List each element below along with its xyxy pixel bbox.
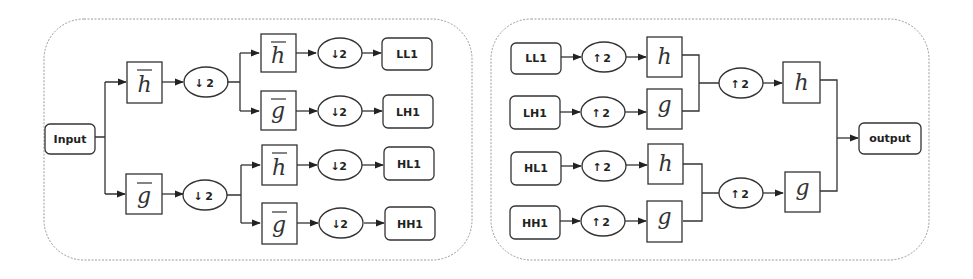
down-arrow-icon: ↓ bbox=[194, 77, 203, 90]
svg-text:2: 2 bbox=[602, 216, 610, 229]
svg-text:HH1: HH1 bbox=[522, 217, 548, 230]
decomposition-panel: Input h ↓ 2 g ↓ 2 bbox=[44, 19, 472, 260]
wavelet-diagram: Input h ↓ 2 g ↓ 2 bbox=[0, 0, 973, 279]
up-arrow-icon: ↑ bbox=[592, 161, 601, 174]
connector bbox=[95, 82, 124, 194]
svg-text:2: 2 bbox=[741, 78, 749, 91]
recon-row-HL1: HL1 ↑ 2 h bbox=[511, 144, 683, 185]
down-arrow-icon: ↓ bbox=[193, 190, 202, 203]
svg-text:g: g bbox=[657, 204, 671, 229]
up-arrow-icon: ↑ bbox=[730, 188, 739, 201]
svg-text:h: h bbox=[657, 44, 671, 69]
up-arrow-icon: ↑ bbox=[592, 52, 601, 65]
svg-text:LH1: LH1 bbox=[523, 107, 547, 120]
svg-text:2: 2 bbox=[603, 52, 611, 65]
output-node: output bbox=[859, 123, 921, 154]
svg-text:LH1: LH1 bbox=[396, 106, 420, 119]
filter-g-bar-stage1: g bbox=[126, 174, 162, 214]
input-label: Input bbox=[54, 133, 87, 146]
up-arrow-icon: ↑ bbox=[591, 107, 600, 120]
recon-stage2-h: ↑ 2 h bbox=[719, 62, 820, 103]
svg-text:2: 2 bbox=[205, 190, 213, 203]
svg-text:2: 2 bbox=[339, 106, 347, 119]
svg-text:LL1: LL1 bbox=[396, 48, 418, 61]
downsample-node: ↓ 2 bbox=[184, 67, 228, 97]
stage2-row-LH1: g ↓ 2 LH1 bbox=[261, 91, 433, 130]
input-node: Input bbox=[45, 124, 95, 154]
svg-text:g: g bbox=[657, 92, 671, 117]
svg-text:HL1: HL1 bbox=[524, 162, 548, 175]
svg-text:2: 2 bbox=[206, 77, 214, 90]
downsample-node: ↓ 2 bbox=[183, 180, 227, 210]
svg-text:g: g bbox=[271, 98, 285, 123]
svg-text:HH1: HH1 bbox=[397, 218, 423, 231]
svg-text:HL1: HL1 bbox=[397, 158, 421, 171]
filter-h-bar-stage1: h bbox=[127, 62, 162, 103]
svg-text:2: 2 bbox=[741, 188, 749, 201]
svg-text:g: g bbox=[272, 212, 286, 237]
recon-row-LL1: LL1 ↑ 2 h bbox=[511, 37, 682, 77]
up-arrow-icon: ↑ bbox=[730, 78, 739, 91]
recon-stage2-g: ↑ 2 g bbox=[719, 172, 820, 212]
svg-text:h: h bbox=[794, 70, 808, 95]
reconstruction-panel: LL1 ↑ 2 h LH1 ↑ 2 g HL1 ↑ bbox=[491, 19, 929, 260]
svg-text:2: 2 bbox=[339, 48, 347, 61]
svg-text:h: h bbox=[137, 72, 151, 97]
stage2-row-LL1: h ↓ 2 LL1 bbox=[261, 34, 432, 72]
svg-text:LL1: LL1 bbox=[525, 52, 547, 65]
svg-text:output: output bbox=[869, 132, 911, 145]
svg-text:2: 2 bbox=[340, 218, 348, 231]
stage2-row-HH1: g ↓ 2 HH1 bbox=[262, 203, 435, 244]
recon-row-LH1: LH1 ↑ 2 g bbox=[510, 89, 682, 129]
svg-text:h: h bbox=[658, 151, 672, 176]
svg-text:2: 2 bbox=[602, 107, 610, 120]
stage2-row-HL1: h ↓ 2 HL1 bbox=[262, 145, 434, 185]
up-arrow-icon: ↑ bbox=[591, 216, 600, 229]
svg-text:2: 2 bbox=[603, 161, 611, 174]
svg-text:g: g bbox=[137, 183, 151, 208]
svg-text:g: g bbox=[795, 175, 809, 200]
svg-text:h: h bbox=[272, 155, 286, 180]
svg-text:2: 2 bbox=[339, 160, 347, 173]
svg-text:h: h bbox=[271, 43, 285, 68]
recon-row-HH1: HH1 ↑ 2 g bbox=[510, 201, 682, 242]
